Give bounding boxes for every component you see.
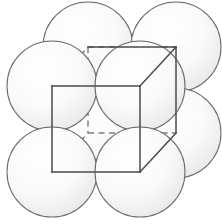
crystal-structure-figure [0, 0, 222, 224]
crystal-structure-canvas [0, 0, 222, 224]
